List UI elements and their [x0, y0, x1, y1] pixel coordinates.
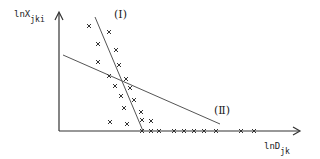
- x-marker-icon: [132, 98, 136, 102]
- x-marker-icon: [107, 30, 111, 34]
- x-marker-icon: [108, 120, 112, 124]
- x-marker-icon: [114, 48, 118, 52]
- x-marker-icon: [140, 118, 144, 122]
- x-marker-icon: [122, 106, 126, 110]
- regression-line-I: [95, 17, 143, 131]
- y-axis-label: lnXjki: [14, 10, 45, 19]
- x-marker-icon: [96, 42, 100, 46]
- data-points: [87, 24, 256, 133]
- y-axis-label-main: lnX: [14, 9, 30, 19]
- regression-lines: [63, 17, 220, 131]
- x-marker-icon: [149, 119, 153, 123]
- regression-diagram: [0, 0, 320, 159]
- x-marker-icon: [139, 110, 143, 114]
- x-marker-icon: [119, 94, 123, 98]
- x-marker-icon: [87, 24, 91, 28]
- x-axis-label-sub: jk: [280, 147, 290, 156]
- y-axis-label-sub: jki: [30, 15, 44, 24]
- x-marker-icon: [124, 77, 128, 81]
- regression-line-II: [63, 55, 220, 124]
- x-axis-label-main: lnD: [264, 141, 280, 151]
- x-axis-label: lnDjk: [264, 142, 290, 151]
- x-marker-icon: [125, 122, 129, 126]
- line-label-I: (Ⅰ): [114, 8, 127, 21]
- x-marker-icon: [113, 84, 117, 88]
- x-marker-icon: [117, 63, 121, 67]
- x-axis: [59, 127, 300, 135]
- line-label-II: (Ⅱ): [214, 104, 230, 117]
- x-marker-icon: [128, 86, 132, 90]
- y-axis: [55, 12, 63, 131]
- x-marker-icon: [96, 60, 100, 64]
